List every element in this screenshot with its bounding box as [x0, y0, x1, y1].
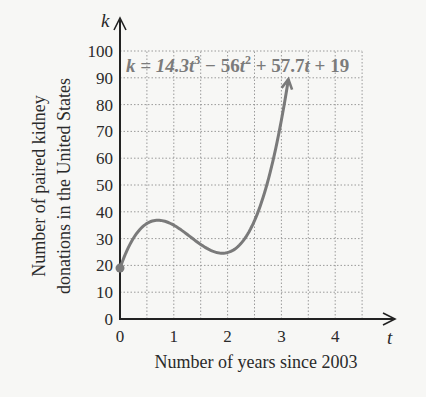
y-variable-label: k	[101, 10, 110, 31]
chart: k t 0102030405060708090100 01234 Number …	[0, 0, 426, 397]
y-tick-labels: 0102030405060708090100	[88, 42, 114, 329]
y-axis-title-line2: donations in the United States	[54, 78, 74, 294]
x-tick-label: 4	[331, 327, 340, 346]
x-tick-labels: 01234	[116, 327, 340, 346]
y-tick-label: 80	[96, 96, 113, 115]
y-tick-label: 50	[96, 176, 113, 195]
cubic-curve	[120, 79, 288, 268]
eq-part: + 57.7	[251, 55, 305, 76]
x-variable-label: t	[387, 327, 393, 348]
y-tick-label: 0	[105, 310, 114, 329]
y-tick-label: 100	[88, 42, 114, 61]
y-tick-label: 10	[96, 283, 113, 302]
y-tick-label: 60	[96, 149, 113, 168]
x-tick-label: 0	[116, 327, 125, 346]
x-tick-label: 2	[223, 327, 232, 346]
y-tick-label: 40	[96, 203, 113, 222]
eq-part: k = 14.3	[126, 55, 189, 76]
x-tick-label: 1	[170, 327, 179, 346]
y-axis-title-line1: Number of paired kidney	[29, 95, 49, 276]
eq-part: + 19	[310, 55, 349, 76]
y-tick-label: 90	[96, 69, 113, 88]
grid	[120, 51, 362, 319]
equation-label: k = 14.3t3 − 56t2 + 57.7t + 19	[126, 53, 349, 76]
y-tick-label: 20	[96, 256, 113, 275]
y-tick-label: 30	[96, 230, 113, 249]
y-tick-label: 70	[96, 122, 113, 141]
eq-part: − 56	[200, 55, 239, 76]
x-axis-title: Number of years since 2003	[155, 352, 358, 372]
start-point	[116, 264, 125, 273]
x-tick-label: 3	[277, 327, 286, 346]
